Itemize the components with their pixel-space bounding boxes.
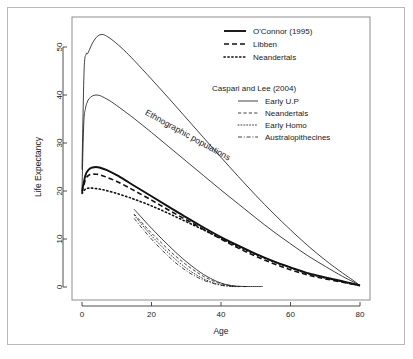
y-tick-label: 0 (55, 284, 64, 289)
y-tick-label: 30 (55, 138, 64, 147)
x-tick-label: 20 (147, 310, 156, 319)
y-tick-label: 10 (55, 234, 64, 243)
legend-label-1: Libben (253, 40, 277, 49)
legend-label-caspari-3: Australopithecines (265, 133, 330, 142)
chart-legend: O'Connor (1995)LibbenNeandertalsCaspari … (212, 27, 330, 142)
annotation-ethnographic-populations: Ethnographic populations (144, 107, 233, 162)
life-expectancy-chart: 020406080Age01020304050Life Expectancy E… (0, 0, 413, 359)
legend-label-0: O'Connor (1995) (253, 27, 313, 36)
y-axis-title: Life Expectancy (33, 136, 43, 197)
legend-label-caspari-2: Early Homo (265, 121, 307, 130)
chart-curves (82, 34, 360, 286)
curve-neandertals-caspari (134, 214, 249, 287)
x-tick-label: 40 (217, 310, 226, 319)
legend-label-caspari-1: Neandertals (265, 109, 308, 118)
x-tick-label: 60 (286, 310, 295, 319)
legend-group-title-caspari: Caspari and Lee (2004) (212, 84, 296, 93)
curve-ethnographic-upper (82, 34, 360, 285)
curve-ethnographic-lower (82, 95, 360, 286)
x-tick-label: 80 (356, 310, 365, 319)
chart-annotations: Ethnographic populations (144, 107, 233, 162)
curve-libben (82, 174, 360, 285)
y-tick-label: 20 (55, 186, 64, 195)
x-axis-title: Age (213, 326, 228, 336)
x-tick-label: 0 (80, 310, 85, 319)
figure-root: 020406080Age01020304050Life Expectancy E… (0, 0, 413, 359)
curve-australopithecines (134, 218, 238, 286)
legend-label-caspari-0: Early U.P (265, 97, 299, 106)
y-tick-label: 50 (55, 42, 64, 51)
curve-early-homo (134, 215, 238, 287)
y-tick-label: 40 (55, 90, 64, 99)
legend-label-2: Neandertals (253, 53, 296, 62)
